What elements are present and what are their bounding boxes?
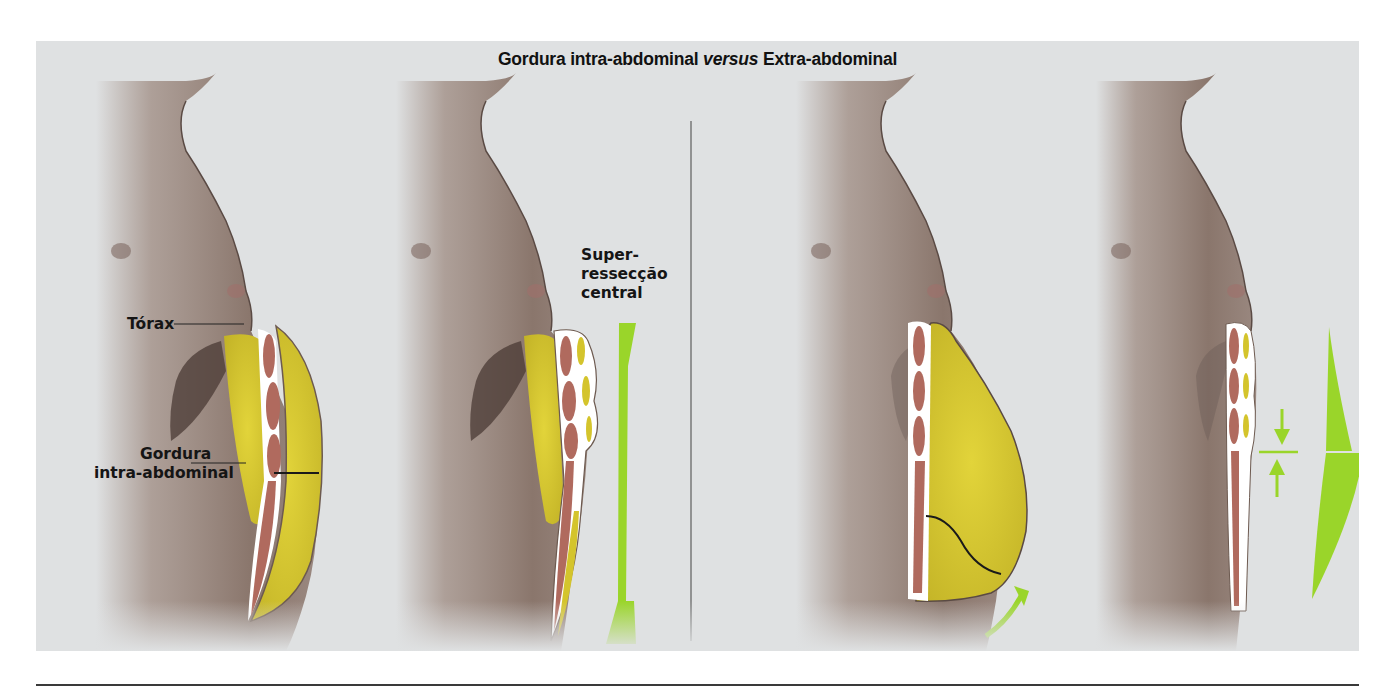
anatomy-illustration: [36, 41, 1359, 651]
panel-2-body: [396, 73, 636, 651]
label-gordura-line1: Gordura: [140, 445, 211, 464]
label-super-line1: Super-: [581, 246, 639, 265]
panel-4-body: [1096, 73, 1359, 651]
label-gordura-line2: intra-abdominal: [94, 464, 234, 483]
panel-1-body: [96, 73, 322, 651]
illustration-frame: Gordura intra-abdominal versus Extra-abd…: [36, 41, 1359, 651]
bottom-rule: [36, 684, 1359, 686]
label-super-line3: central: [581, 284, 643, 303]
panel-3-body: [796, 73, 1029, 651]
label-super-line2: ressecção: [581, 265, 668, 284]
label-torax: Tórax: [127, 315, 174, 334]
